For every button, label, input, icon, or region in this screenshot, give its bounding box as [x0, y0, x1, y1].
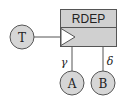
rdep-block-title: RDEP — [72, 12, 105, 26]
node-a-label: A — [67, 77, 77, 91]
node-t: T — [10, 25, 34, 49]
node-b: B — [91, 71, 115, 95]
node-t-label: T — [18, 31, 26, 45]
diagram-canvas: RDEP T A B γ δ — [0, 0, 124, 105]
node-b-label: B — [99, 77, 108, 91]
edge-label-delta: δ — [107, 55, 114, 68]
node-a: A — [60, 71, 84, 95]
rdep-block: RDEP — [61, 10, 117, 47]
edge-label-gamma: γ — [61, 56, 68, 69]
